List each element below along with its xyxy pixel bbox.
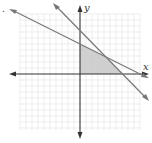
y-axis-up-arrow-icon <box>78 5 83 12</box>
x-axis-label: x <box>143 61 149 72</box>
y-axis-label: y <box>83 2 90 13</box>
linear-inequality-graph: y x <box>0 0 152 143</box>
line2-arrow-left-icon <box>9 9 17 14</box>
y-axis-down-arrow-icon <box>78 132 83 139</box>
x-axis-left-arrow-icon <box>9 72 16 77</box>
